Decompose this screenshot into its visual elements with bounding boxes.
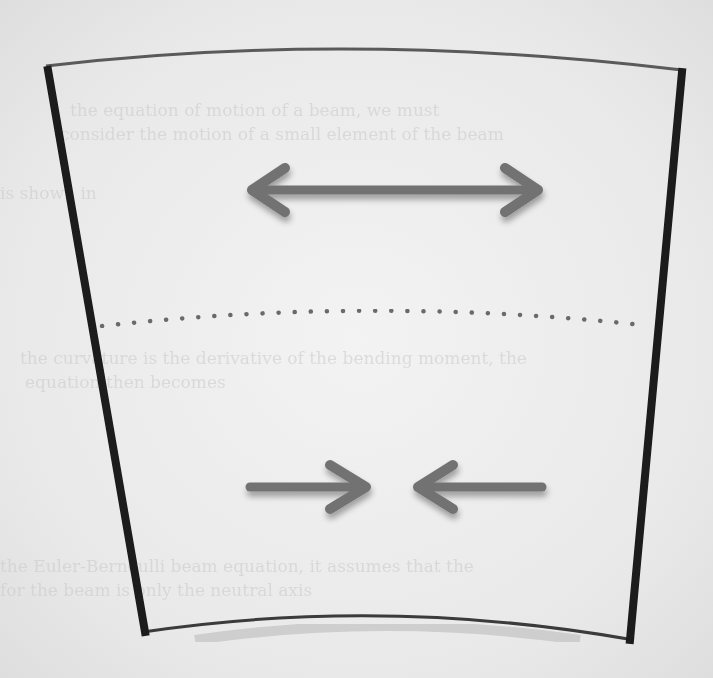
tension-arrow-icon [252, 168, 538, 212]
top-surface-arc [46, 49, 682, 70]
left-section-edge [48, 70, 145, 632]
beam-bending-diagram [0, 0, 713, 678]
neutral-axis-dotted-line [102, 311, 642, 326]
compression-arrow-right-icon [418, 465, 542, 509]
compression-arrow-left-icon [250, 465, 366, 509]
right-section-edge [630, 72, 682, 640]
diagram-page: the equation of motion of a beam, we mus… [0, 0, 713, 678]
bottom-surface-shadow [195, 626, 580, 640]
